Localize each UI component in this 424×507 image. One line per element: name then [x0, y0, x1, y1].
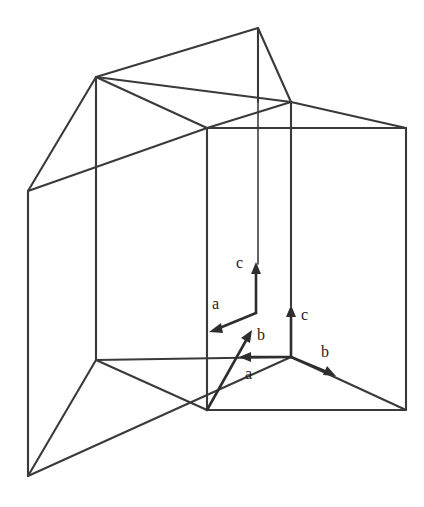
edge-backbottomleft-to-innerbottomleft: [96, 360, 207, 410]
edge-apex-to-innertopmid: [258, 28, 291, 102]
vector-inner-c: [251, 262, 261, 313]
vector-outer-a-arrowhead: [239, 352, 251, 362]
edge-apex-to-backtopleft: [96, 28, 258, 77]
vector-group-inner-origin: [207, 262, 261, 410]
edge-innertopmid-to-innertopright: [291, 102, 406, 128]
edge-backbottomleft-to-leftbottom: [28, 360, 96, 476]
vector-inner-b-shaft: [207, 337, 248, 410]
lattice-diagram-figure: c a b c b a: [0, 0, 424, 507]
label-inner-a: a: [212, 296, 219, 312]
label-inner-c: c: [236, 255, 243, 271]
label-outer-c: c: [301, 307, 308, 323]
label-outer-b: b: [321, 344, 329, 360]
vector-inner-c-arrowhead: [251, 262, 261, 274]
edge-backtopleft-to-lefttop: [28, 77, 96, 191]
label-inner-b: b: [257, 327, 265, 343]
label-outer-a: a: [245, 366, 252, 382]
vector-inner-a-shaft: [217, 313, 256, 329]
vector-inner-a-arrowhead: [209, 323, 223, 333]
edge-lefttop-to-innertopleft: [28, 128, 207, 191]
vector-outer-c-arrowhead: [286, 305, 296, 317]
lattice-wireframe-svg: [0, 0, 424, 507]
vector-inner-a: [209, 313, 256, 333]
vector-outer-b: [291, 357, 336, 376]
vector-inner-b-arrowhead: [241, 330, 252, 343]
vector-group-outer-origin: [239, 305, 336, 376]
vector-outer-b-arrowhead: [323, 366, 336, 376]
edge-innertopleft-to-innertopmid: [207, 102, 291, 128]
outer-cell-wireframe: [28, 28, 291, 476]
vector-outer-c: [286, 305, 296, 357]
